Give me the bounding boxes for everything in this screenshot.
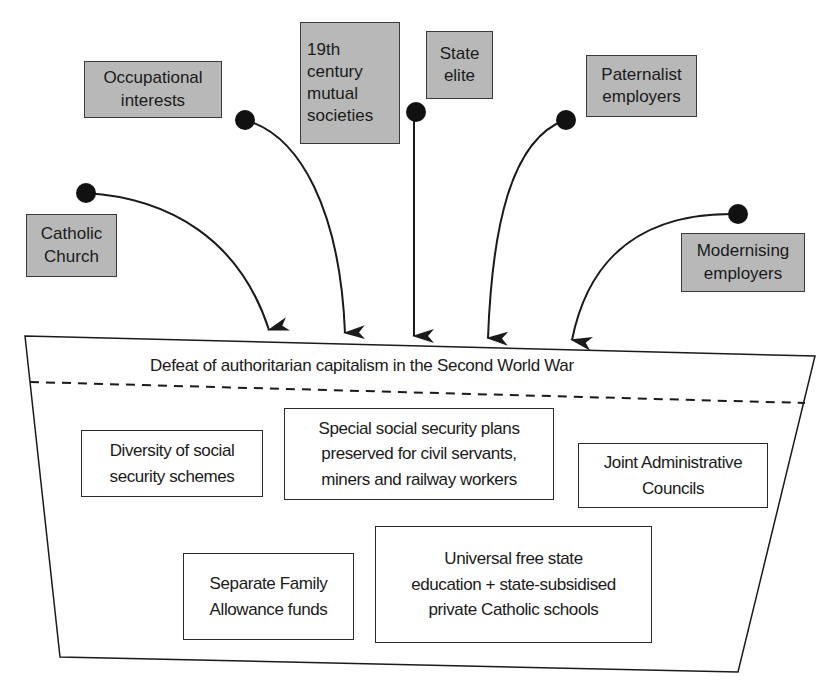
source-paternalist-employers: Paternalist employers xyxy=(586,55,697,117)
outcome-family-allowance: Separate Family Allowance funds xyxy=(183,553,354,640)
outcome-education: Universal free state education + state-s… xyxy=(375,526,652,643)
source-modernising-employers: Modernising employers xyxy=(681,233,805,292)
outcome-label: Joint Administrative Councils xyxy=(604,450,742,501)
source-occupational-interests: Occupational interests xyxy=(84,61,222,118)
source-label: Occupational interests xyxy=(103,67,202,111)
source-label: State elite xyxy=(440,43,480,87)
dot-modernising-employers xyxy=(728,204,748,224)
dot-occupational-interests xyxy=(235,110,255,130)
source-mutual-societies: 19th century mutual societies xyxy=(300,22,400,144)
source-state-elite: State elite xyxy=(426,31,493,99)
source-catholic-church: Catholic Church xyxy=(26,214,117,277)
dot-mutual-societies xyxy=(406,102,426,122)
source-label: Catholic Church xyxy=(41,223,102,267)
dot-paternalist-employers xyxy=(556,110,576,130)
source-label: Paternalist employers xyxy=(601,64,681,108)
dot-catholic-church xyxy=(76,183,96,203)
source-label: 19th century mutual societies xyxy=(307,39,373,127)
outcome-diversity: Diversity of social security schemes xyxy=(81,430,263,497)
outcome-joint-councils: Joint Administrative Councils xyxy=(578,443,768,508)
arrow-occupational-interests xyxy=(245,120,345,333)
outcome-label: Special social security plans preserved … xyxy=(319,416,520,493)
source-label: Modernising employers xyxy=(697,240,790,284)
arrow-paternalist-employers xyxy=(488,120,565,338)
outcome-special-plans: Special social security plans preserved … xyxy=(284,408,554,500)
outcome-label: Diversity of social security schemes xyxy=(110,438,235,489)
funnel-header: Defeat of authoritarian capitalism in th… xyxy=(150,356,574,376)
outcome-label: Universal free state education + state-s… xyxy=(411,546,616,623)
outcome-label: Separate Family Allowance funds xyxy=(210,571,328,622)
